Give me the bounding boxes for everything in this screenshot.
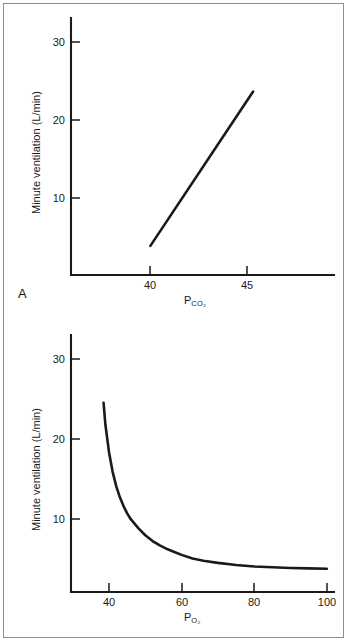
chart-b-data-curve — [104, 403, 327, 569]
chart-b-y-axis-title: Minute ventilation (L/min) — [30, 408, 42, 531]
chart-b-y-ticks — [71, 359, 80, 519]
chart-b-x-axis-title: PO₂ — [184, 611, 201, 623]
panel-a-letter: A — [18, 286, 27, 301]
chart-b-xtick-80: 80 — [248, 596, 260, 608]
chart-a-y-axis-title: Minute ventilation (L/min) — [30, 91, 42, 214]
chart-a-xtick-40: 40 — [144, 279, 156, 291]
figure-border: 30 20 10 40 45 Minute ventilation (L/min… — [3, 3, 344, 638]
chart-b-plot: 30 20 10 40 60 80 100 — [4, 321, 345, 639]
chart-a-axes — [71, 18, 334, 275]
chart-b-xtick-40: 40 — [103, 596, 115, 608]
chart-b-ytick-30: 30 — [53, 353, 65, 365]
figure-container: 30 20 10 40 45 Minute ventilation (L/min… — [0, 0, 347, 641]
chart-b-x-ticks — [109, 583, 327, 592]
chart-a-x-ticks — [150, 266, 247, 275]
chart-a-ytick-10: 10 — [53, 192, 65, 204]
chart-a-x-axis-title: PCO₂ — [184, 294, 206, 306]
chart-b-xtick-60: 60 — [176, 596, 188, 608]
chart-a-xtick-45: 45 — [241, 279, 253, 291]
chart-a-y-ticks — [71, 42, 80, 198]
chart-b-ytick-10: 10 — [53, 513, 65, 525]
chart-b-ytick-20: 20 — [53, 433, 65, 445]
chart-a-data-line — [150, 92, 253, 246]
panel-b: 30 20 10 40 60 80 100 Minute ventilation… — [4, 321, 345, 639]
chart-a-ytick-20: 20 — [53, 114, 65, 126]
chart-a-plot: 30 20 10 40 45 — [4, 4, 345, 321]
chart-b-xtick-100: 100 — [318, 596, 336, 608]
chart-a-ytick-30: 30 — [53, 36, 65, 48]
chart-b-x-axis-title-sub: O₂ — [191, 616, 200, 625]
chart-a-x-axis-title-sub: CO₂ — [191, 299, 206, 308]
panel-a: 30 20 10 40 45 Minute ventilation (L/min… — [4, 4, 345, 321]
